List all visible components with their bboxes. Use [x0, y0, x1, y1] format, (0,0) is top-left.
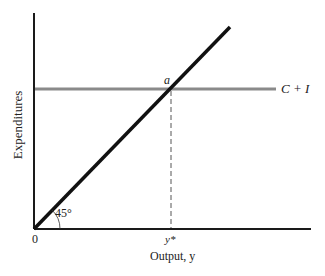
angle-label: 45°	[55, 206, 72, 220]
forty-five-degree-line	[34, 27, 230, 229]
y-axis-label: Expenditures	[10, 91, 25, 160]
origin-label: 0	[32, 232, 38, 246]
keynesian-cross-diagram: 45° 0 a C + I y* Output, y Expenditures	[0, 0, 325, 276]
equilibrium-point-label: a	[164, 73, 170, 87]
equilibrium-output-label: y*	[164, 233, 176, 245]
x-axis-label: Output, y	[150, 249, 195, 263]
expenditure-line-label: C + I	[281, 81, 310, 96]
